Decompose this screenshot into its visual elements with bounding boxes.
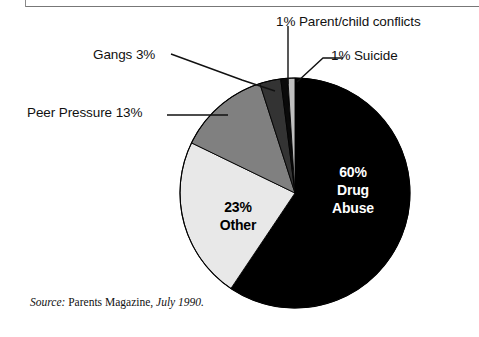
source-caption: Source: Parents Magazine, July 1990. [30,296,204,308]
pie-chart-graphic [0,0,479,337]
pie-callout-parent-child: 1% Parent/child conflicts [276,14,421,30]
pie-callout-gangs: Gangs 3% [93,47,155,63]
source-prefix: Source: [30,296,65,308]
leader-line-gangs [171,54,275,91]
pie-slice-label-other: 23% Other [198,199,278,235]
source-date: July 1990. [156,296,204,308]
pie-slice-label-drug-abuse: 60% Drug Abuse [310,164,396,218]
source-publication: Parents Magazine, [68,296,153,308]
pie-callout-suicide: 1% Suicide [331,48,398,64]
chart-page: 1% Parent/child conflicts 1% Suicide Gan… [0,0,479,337]
pie-callout-peer-pressure: Peer Pressure 13% [27,105,142,121]
